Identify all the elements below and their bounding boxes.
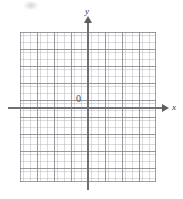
- x-axis-arrow-icon: [162, 104, 169, 112]
- y-axis: [87, 18, 89, 190]
- origin-label: 0: [76, 94, 81, 104]
- x-axis: [8, 107, 164, 109]
- x-axis-label: x: [172, 103, 176, 112]
- y-axis-label: y: [85, 7, 89, 16]
- page-artifact-smudge: [24, 1, 38, 10]
- y-axis-arrow-icon: [84, 16, 92, 23]
- coordinate-plane-figure: y x 0: [0, 0, 183, 199]
